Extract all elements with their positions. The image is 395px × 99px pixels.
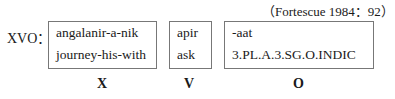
word-order-label: XVO： <box>7 27 51 47</box>
role-label-v: V <box>184 76 194 92</box>
morpheme-line: angalanir-a-nik <box>56 25 138 41</box>
constituent-box-o: -aat 3.PL.A.3.SG.O.INDIC <box>224 21 374 69</box>
citation: （Fortescue 1984：92） <box>262 1 394 20</box>
morpheme-line: -aat <box>232 25 252 41</box>
gloss-line: 3.PL.A.3.SG.O.INDIC <box>232 47 356 63</box>
morpheme-line: apir <box>177 25 198 41</box>
role-label-o: O <box>293 76 304 92</box>
gloss-line: ask <box>177 47 195 63</box>
role-label-x: X <box>97 76 107 92</box>
gloss-line: journey-his-with <box>56 47 146 63</box>
constituent-box-x: angalanir-a-nik journey-his-with <box>48 21 157 69</box>
constituent-box-v: apir ask <box>169 21 212 69</box>
